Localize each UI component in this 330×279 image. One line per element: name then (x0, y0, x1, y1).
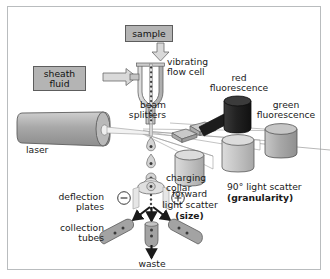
fluid-jet (150, 124, 153, 136)
side-scatter-granularity-label: (granularity) (227, 193, 293, 203)
red-fluorescence-label: red fluorescence (197, 73, 281, 94)
beam-splitters-label: beam splitters (106, 100, 166, 121)
waste-label: waste (124, 259, 180, 269)
side-scatter-label: 90° light scatter (227, 182, 302, 192)
collection-tube-left (100, 219, 134, 244)
forward-scatter-label-2: light scatter (146, 200, 234, 210)
forward-scatter-size-label: (size) (152, 211, 227, 221)
laser-source (17, 112, 110, 146)
deflection-plates-label: deflection plates (18, 192, 104, 213)
collection-tube-center (145, 222, 158, 247)
sheath-fluid-box[interactable]: sheath fluid (33, 66, 86, 91)
collection-tubes-label: collection tubes (18, 223, 104, 244)
figure-canvas: sample sheath fluid vibrating flow cell … (0, 0, 330, 279)
laser-beam (107, 127, 149, 135)
green-fluorescence-detector (265, 124, 297, 158)
deflection-plate-negative (118, 192, 131, 205)
side-scatter-detector (222, 135, 254, 172)
collection-tube-right (168, 219, 202, 244)
green-fluorescence-label: green fluorescence (243, 100, 329, 121)
sample-box[interactable]: sample (125, 25, 173, 42)
charging-collar-label: charging collar (166, 173, 206, 194)
laser-label: laser (26, 145, 48, 155)
droplet-stream (146, 137, 156, 183)
